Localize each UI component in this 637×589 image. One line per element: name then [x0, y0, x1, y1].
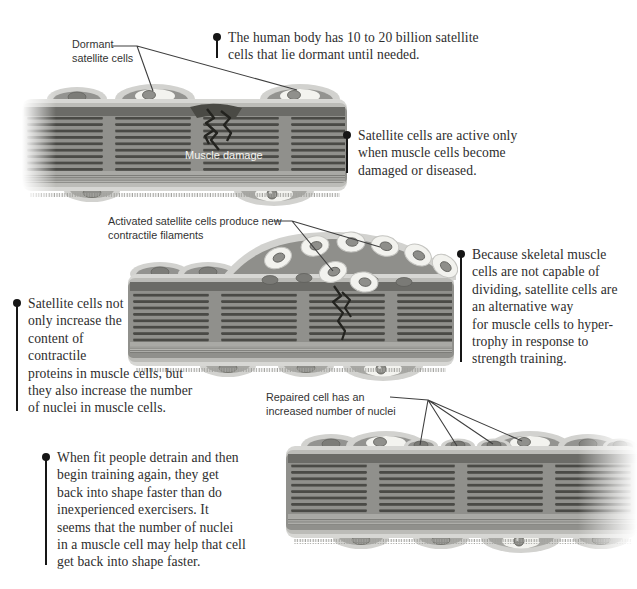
muscle-fiber-band — [22, 99, 347, 197]
pin-marker — [42, 449, 50, 571]
left-fade — [22, 83, 56, 213]
pin-line — [216, 40, 218, 58]
satellite-cell-diagram: Muscle damage — [0, 0, 637, 589]
note-dormant-count-text: The human body has 10 to 20 billion sate… — [228, 29, 479, 64]
activated-satellite-cells-label: Activated satellite cells produce new co… — [108, 215, 281, 242]
muscle-damage-label: Muscle damage — [185, 149, 263, 161]
note-detrain: When fit people detrain and then begin t… — [42, 449, 332, 571]
note-detrain-text: When fit people detrain and then begin t… — [57, 449, 246, 571]
note-hypertrophy-text: Because skeletal muscle cells are not ca… — [472, 246, 618, 368]
pin-line — [346, 138, 348, 173]
nucleus — [296, 274, 312, 283]
pin-line — [45, 460, 47, 565]
right-fade — [578, 418, 637, 589]
note-hypertrophy: Because skeletal muscle cells are not ca… — [457, 246, 635, 368]
repaired-cell-label: Repaired cell has an increased number of… — [266, 391, 396, 418]
note-active-when-text: Satellite cells are active only when mus… — [358, 127, 517, 179]
muscle-fiber-repaired-figure — [286, 418, 637, 589]
note-nuclei-increase-text: Satellite cells not only increase the co… — [28, 295, 192, 417]
note-active-when: Satellite cells are active only when mus… — [343, 127, 583, 179]
nucleus — [262, 276, 278, 285]
pin-marker — [343, 127, 351, 179]
dormant-satellite-cells-label: Dormant satellite cells — [72, 38, 133, 65]
pin-marker — [213, 29, 221, 64]
nucleus — [396, 278, 412, 287]
note-nuclei-increase: Satellite cells not only increase the co… — [13, 295, 243, 417]
pin-marker — [457, 246, 465, 368]
muscle-fiber-damaged-figure: Muscle damage — [22, 83, 347, 213]
myofibril-striations — [24, 117, 345, 171]
pin-marker — [13, 295, 21, 417]
pin-line — [460, 257, 462, 362]
pin-line — [16, 306, 18, 411]
note-dormant-count: The human body has 10 to 20 billion sate… — [213, 29, 528, 64]
